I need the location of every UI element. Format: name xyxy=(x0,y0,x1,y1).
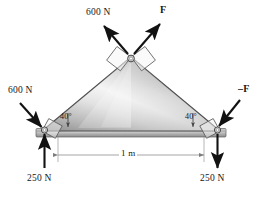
pin-joint-left xyxy=(41,127,47,133)
left-reaction-label: 250 N xyxy=(27,174,52,184)
right-joint-force-arrow xyxy=(219,100,240,126)
left-joint-force-label: 600 N xyxy=(8,86,33,96)
apex-left-force-label: 600 N xyxy=(86,8,111,18)
left-base-angle-label: 40° xyxy=(60,113,72,121)
diagram-canvas xyxy=(0,0,263,198)
span-dimension-label: 1 m xyxy=(119,149,137,158)
truss-force-diagram: 600 N F 600 N –F 40° 40° 1 m 250 N 250 N xyxy=(0,0,263,198)
pin-joint-apex xyxy=(128,55,135,62)
right-reaction-label: 250 N xyxy=(200,174,225,184)
apex-right-force-label: F xyxy=(160,5,166,15)
right-base-angle-label: 40° xyxy=(185,113,197,121)
left-joint-force-arrow xyxy=(20,103,42,127)
right-joint-force-label: –F xyxy=(238,84,250,94)
pin-joint-right xyxy=(214,127,220,133)
